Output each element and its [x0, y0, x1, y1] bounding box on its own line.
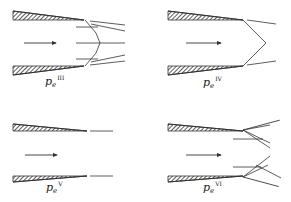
label-symbol: p: [45, 75, 52, 88]
label-pe-iv: peIV: [203, 77, 221, 88]
label-symbol: p: [46, 181, 53, 194]
label-pe-vi: peVI: [203, 182, 221, 193]
label-subscript: e: [210, 187, 214, 195]
panel-v: [13, 124, 113, 182]
label-subscript: e: [53, 187, 57, 195]
label-superscript: III: [57, 74, 64, 81]
label-subscript: e: [52, 81, 56, 89]
nozzle-flow-diagram: [0, 0, 291, 202]
panel-iii: [13, 11, 125, 75]
label-subscript: e: [210, 82, 214, 90]
label-pe-v: peV: [46, 182, 62, 193]
label-symbol: p: [203, 76, 210, 89]
panel-iv: [168, 11, 276, 75]
label-symbol: p: [203, 181, 210, 194]
label-superscript: V: [58, 180, 62, 187]
label-superscript: VI: [215, 180, 222, 187]
label-superscript: IV: [215, 75, 222, 82]
label-pe-iii: peIII: [45, 76, 63, 87]
shock-front: [243, 20, 266, 66]
panel-vi: [168, 120, 281, 186]
